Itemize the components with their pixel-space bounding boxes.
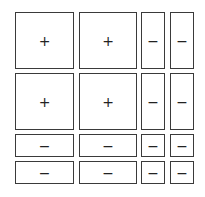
grid-cell-r3-c2: − (79, 134, 137, 157)
grid-cell-r4-c4: − (170, 161, 194, 184)
minus-sign-icon: − (147, 166, 159, 180)
plus-sign-icon: + (102, 34, 114, 48)
minus-sign-icon: − (176, 139, 188, 153)
grid-cell-r4-c3: − (141, 161, 165, 184)
grid-cell-r1-c3: − (141, 12, 165, 69)
grid-cell-r3-c1: − (15, 134, 74, 157)
minus-sign-icon: − (39, 139, 51, 153)
grid-cell-r1-c2: + (79, 12, 137, 69)
minus-sign-icon: − (147, 139, 159, 153)
plus-sign-icon: + (102, 95, 114, 109)
grid-cell-r3-c4: − (170, 134, 194, 157)
minus-sign-icon: − (39, 166, 51, 180)
plus-sign-icon: + (39, 95, 51, 109)
grid-cell-r1-c1: + (15, 12, 74, 69)
grid-cell-r2-c1: + (15, 73, 74, 130)
minus-sign-icon: − (102, 139, 114, 153)
grid-cell-r2-c4: − (170, 73, 194, 130)
minus-sign-icon: − (102, 166, 114, 180)
minus-sign-icon: − (176, 166, 188, 180)
plus-sign-icon: + (39, 34, 51, 48)
grid-cell-r2-c2: + (79, 73, 137, 130)
grid-cell-r3-c3: − (141, 134, 165, 157)
minus-sign-icon: − (147, 95, 159, 109)
grid-cell-r4-c1: − (15, 161, 74, 184)
grid-cell-r1-c4: − (170, 12, 194, 69)
minus-sign-icon: − (176, 95, 188, 109)
minus-sign-icon: − (176, 34, 188, 48)
minus-sign-icon: − (147, 34, 159, 48)
grid-cell-r4-c2: − (79, 161, 137, 184)
grid-cell-r2-c3: − (141, 73, 165, 130)
